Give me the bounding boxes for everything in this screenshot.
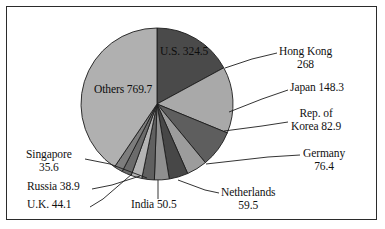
pie-slices-group <box>81 28 233 180</box>
slice-label-india: India 50.5 <box>131 199 177 211</box>
leader-line-hong-kong <box>225 53 277 68</box>
slice-label-hong-kong: Hong Kong 268 <box>279 45 332 71</box>
slice-label-korea-value: Korea 82.9 <box>291 120 341 133</box>
slice-label-singapore-value: 35.6 <box>26 161 72 174</box>
slice-label-germany-name: Germany <box>303 147 345 160</box>
slice-label-korea: Rep. of Korea 82.9 <box>291 107 341 133</box>
leader-line-russia <box>92 176 140 189</box>
slice-label-germany: Germany 76.4 <box>303 147 345 173</box>
leader-line-uk <box>90 174 132 207</box>
slice-label-netherlands-value: 59.5 <box>221 199 275 212</box>
leader-line-japan <box>229 90 288 112</box>
slice-label-korea-name: Rep. of <box>291 107 341 120</box>
slice-label-netherlands-name: Netherlands <box>221 186 275 199</box>
leader-line-germany <box>206 155 300 164</box>
slice-label-singapore-name: Singapore <box>26 148 72 161</box>
pie-chart-figure: U.S. 324.5 Others 769.7 Hong Kong 268 Ja… <box>0 0 385 229</box>
leader-line-korea <box>224 122 288 131</box>
leader-line-netherlands <box>178 180 219 193</box>
slice-label-japan: Japan 148.3 <box>290 82 344 94</box>
slice-label-uk: U.K. 44.1 <box>27 199 71 211</box>
slice-label-others: Others 769.7 <box>94 84 152 96</box>
slice-label-netherlands: Netherlands 59.5 <box>221 186 275 212</box>
slice-label-hong-kong-value: 268 <box>279 58 332 71</box>
slice-label-germany-value: 76.4 <box>303 160 345 173</box>
slice-label-russia: Russia 38.9 <box>27 181 80 193</box>
slice-label-hong-kong-name: Hong Kong <box>279 45 332 58</box>
slice-label-singapore: Singapore 35.6 <box>26 148 72 174</box>
slice-label-us: U.S. 324.5 <box>160 46 208 58</box>
